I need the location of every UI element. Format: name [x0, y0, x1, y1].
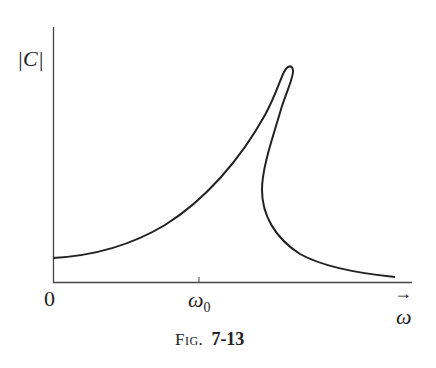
figure: |C| 0 ω0 → ω Fig.7-13: [0, 0, 436, 368]
arrow-right-icon: →: [394, 283, 412, 304]
x-axis-label: ω: [396, 304, 412, 330]
omega0-label: ω0: [188, 287, 211, 316]
omega0-symbol: ω: [188, 287, 204, 312]
caption-number: 7-13: [211, 329, 244, 349]
figure-caption: Fig.7-13: [175, 329, 244, 350]
caption-prefix: Fig.: [175, 330, 203, 349]
resonance-curve: [53, 66, 395, 277]
origin-label: 0: [44, 286, 55, 312]
response-curve-plot: [0, 0, 436, 368]
y-axis-label: |C|: [17, 46, 44, 72]
omega0-subscript: 0: [204, 300, 211, 315]
